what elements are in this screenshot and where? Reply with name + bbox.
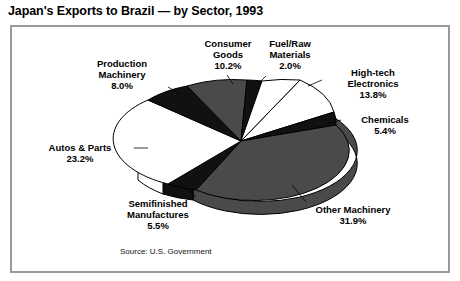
label-semifinished-line2: Manufactures (127, 209, 189, 220)
label-high-tech-electronics: High-tech Electronics 13.8% (325, 67, 421, 100)
label-production-line1: Production (97, 58, 147, 69)
label-fuel-raw-pct: 2.0% (253, 60, 327, 71)
label-consumer-goods-line1: Consumer (205, 38, 252, 49)
chart-page: Japan's Exports to Brazil — by Sector, 1… (0, 0, 460, 281)
label-autos-line1: Autos & Parts (49, 142, 112, 153)
label-production-line2: Machinery (99, 69, 146, 80)
label-chemicals-pct: 5.4% (345, 125, 425, 136)
label-fuel-raw-line1: Fuel/Raw (269, 38, 311, 49)
label-other-machinery-pct: 31.9% (298, 215, 408, 226)
label-other-machinery-line1: Other Machinery (316, 204, 391, 215)
label-high-tech-line1: High-tech (351, 67, 395, 78)
label-chemicals-line1: Chemicals (361, 114, 409, 125)
source-note: Source: U.S. Government (120, 247, 212, 256)
label-consumer-goods-line2: Goods (213, 49, 243, 60)
label-high-tech-pct: 13.8% (325, 89, 421, 100)
leader-high-tech (308, 80, 322, 86)
label-fuel-raw-line2: Materials (269, 49, 310, 60)
label-autos-pct: 23.2% (30, 153, 130, 164)
label-semifinished-pct: 5.5% (112, 220, 204, 231)
label-semifinished-manufactures: Semifinished Manufactures 5.5% (112, 198, 204, 231)
label-production-machinery: Production Machinery 8.0% (78, 58, 166, 91)
label-other-machinery: Other Machinery 31.9% (298, 204, 408, 226)
label-autos-and-parts: Autos & Parts 23.2% (30, 142, 130, 164)
label-production-pct: 8.0% (78, 80, 166, 91)
label-high-tech-line2: Electronics (347, 78, 398, 89)
label-chemicals: Chemicals 5.4% (345, 114, 425, 136)
label-semifinished-line1: Semifinished (128, 198, 187, 209)
plot-area: Consumer Goods 10.2% Fuel/Raw Materials … (0, 0, 460, 281)
label-fuel-raw-materials: Fuel/Raw Materials 2.0% (253, 38, 327, 71)
